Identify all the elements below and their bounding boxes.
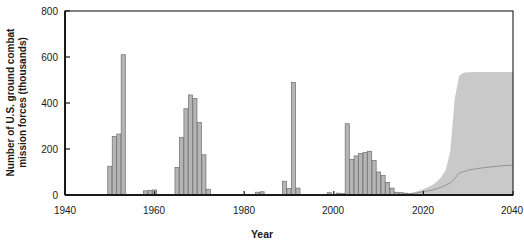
bar [121, 55, 125, 195]
bar [117, 134, 121, 195]
bar [350, 159, 354, 195]
bar [108, 166, 112, 195]
bar-series [108, 55, 408, 195]
bar [390, 188, 394, 195]
bar [296, 188, 300, 195]
bar [354, 156, 358, 195]
bar [386, 182, 390, 195]
chart-container: Number of U.S. ground combat mission for… [0, 0, 524, 249]
bar [202, 155, 206, 195]
bar [291, 82, 295, 195]
bar [372, 161, 376, 196]
bar [179, 138, 183, 196]
bar [345, 124, 349, 195]
bar [359, 154, 363, 195]
bar [188, 95, 192, 195]
axis-frame [65, 11, 513, 195]
plot-area [0, 0, 524, 249]
bar [381, 175, 385, 195]
projection-band [405, 72, 513, 195]
bar [184, 109, 188, 195]
bar [175, 167, 179, 195]
plot-frame [65, 11, 513, 195]
bar [363, 152, 367, 195]
bar [193, 98, 197, 195]
bar [282, 181, 286, 195]
uncertainty-band [405, 72, 513, 195]
bar [197, 123, 201, 195]
bar [112, 136, 116, 195]
bar [368, 151, 372, 195]
bar [377, 172, 381, 195]
